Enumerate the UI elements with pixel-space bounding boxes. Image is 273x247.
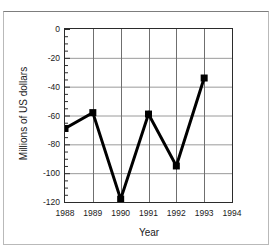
data-point-marker: [201, 75, 208, 82]
x-tick-label: 1994: [212, 208, 252, 218]
data-line: [65, 78, 204, 199]
y-tick-label: -20: [26, 53, 60, 63]
y-tick-label: 0: [26, 24, 60, 34]
data-point-marker: [173, 162, 180, 169]
y-tick-label: -40: [26, 82, 60, 92]
y-tick-label: -120: [26, 197, 60, 207]
data-point-marker: [65, 125, 69, 132]
y-axis-minor-ticks: [65, 30, 70, 203]
y-tick-label: -80: [26, 139, 60, 149]
plot-area: [64, 28, 233, 203]
data-point-marker: [117, 196, 124, 202]
plot-svg: [65, 29, 232, 202]
x-axis-title: Year: [64, 227, 234, 238]
y-tick-label: -100: [26, 168, 60, 178]
data-point-marker: [145, 111, 152, 118]
x-axis-tick-labels: 1988 1989 1990 1991 1992 1993 1994: [64, 208, 233, 222]
chart-figure: Millions of US dollars 0 -20 -40 -60 -80…: [0, 0, 273, 247]
y-axis-tick-labels: 0 -20 -40 -60 -80 -100 -120: [24, 28, 60, 203]
data-point-marker: [89, 109, 96, 116]
y-tick-label: -60: [26, 111, 60, 121]
